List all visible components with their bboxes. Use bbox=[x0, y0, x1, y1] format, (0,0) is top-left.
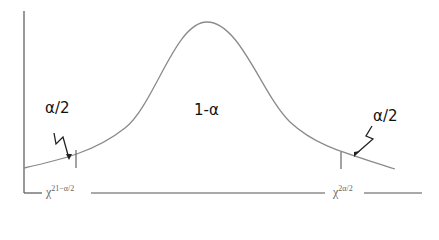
left-arrow-icon bbox=[54, 133, 68, 155]
right-tail-label: α/2 bbox=[373, 109, 398, 124]
density-curve bbox=[24, 22, 395, 169]
right-arrowhead-icon bbox=[354, 151, 360, 157]
left-critical-sub: 1−α/2 bbox=[55, 184, 74, 193]
center-area-label: 1-α bbox=[194, 103, 219, 118]
right-arrow-icon bbox=[357, 126, 373, 153]
right-critical-sub: α/2 bbox=[342, 184, 352, 193]
left-tail-label: α/2 bbox=[45, 101, 70, 116]
right-critical-value-label: χ2α/2 bbox=[333, 185, 353, 198]
left-critical-value-label: χ21−α/2 bbox=[46, 185, 74, 198]
